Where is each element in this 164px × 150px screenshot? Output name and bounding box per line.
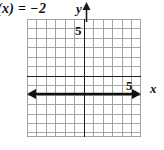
graph-figure: (x) = −2 [0,0,164,150]
grid-svg [27,19,141,137]
x-axis-label: x [150,82,157,95]
function-arrowhead-left [27,89,36,99]
y-axis-tick-label-5: 5 [75,24,82,37]
function-arrowhead-right [132,89,141,99]
equation-label: (x) = −2 [0,1,46,17]
y-axis-label: y [76,2,82,15]
x-axis-tick-label-5: 5 [126,79,133,92]
y-axis-arrowhead [83,2,91,10]
coordinate-grid [27,19,141,137]
y-axis-arrow-svg [82,2,92,22]
